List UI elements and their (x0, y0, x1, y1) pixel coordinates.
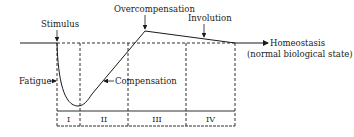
fatigue-curve (57, 43, 92, 106)
involution-line (145, 31, 235, 43)
phase-label-2: II (101, 115, 107, 124)
phase-label-4: IV (206, 115, 215, 124)
overcompensation-label: Overcompensation (114, 4, 195, 14)
phase-label-1: I (67, 115, 70, 124)
fatigue-label: Fatigue (19, 76, 51, 86)
homeostasis-sublabel: (normal biological state) (247, 49, 353, 59)
involution-label: Involution (188, 13, 232, 23)
phase-label-3: III (152, 115, 161, 124)
homeostasis-label: Homeostasis (270, 38, 325, 48)
stimulus-label: Stimulus (41, 19, 79, 29)
compensation-label: Compensation (115, 76, 177, 86)
supercompensation-diagram: Stimulus Overcompensation Involution Hom… (0, 0, 354, 137)
